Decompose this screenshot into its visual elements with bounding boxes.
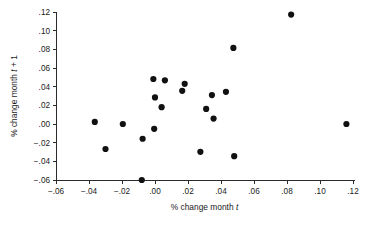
data-point [152,94,158,100]
y-tick-label: .08 [39,45,51,54]
data-point [179,88,185,94]
data-point [139,177,145,183]
data-point [159,104,165,110]
x-tick-label: −.06 [48,187,65,196]
data-point [182,81,188,87]
data-point [288,12,294,18]
data-point [140,136,146,142]
x-tick-label: .02 [182,187,194,196]
y-tick-label: −.04 [34,157,51,166]
data-points-layer [92,12,350,184]
x-tick-label: −.04 [81,187,98,196]
data-point [92,119,98,125]
data-point [150,76,156,82]
data-point [231,153,237,159]
data-point [343,121,349,127]
y-tick-label: .06 [39,64,51,73]
y-axis: −.06−.04−.02.00.02.04.06.08.10.12 [34,8,56,185]
x-axis-title: % change month t [171,202,239,212]
x-axis: −.06−.04−.02.00.02.04.06.08.10.12 [48,180,359,196]
y-tick-label: .10 [39,27,51,36]
x-tick-label: .04 [215,187,227,196]
x-tick-label: .00 [149,187,161,196]
data-point [203,106,209,112]
data-point [209,92,215,98]
data-point [197,149,203,155]
data-point [210,115,216,121]
x-tick-label: .10 [314,187,326,196]
chart-canvas: −.06−.04−.02.00.02.04.06.08.10.12 −.06−.… [0,0,368,233]
y-axis-title: % change month t + 1 [9,55,19,137]
y-tick-label: .02 [39,101,51,110]
data-point [151,126,157,132]
y-tick-label: .12 [39,8,51,17]
x-tick-label: −.02 [114,187,131,196]
y-tick-label: −.02 [34,139,51,148]
y-tick-label: −.06 [34,176,51,185]
x-tick-label: .12 [347,187,359,196]
data-point [120,121,126,127]
x-tick-label: .06 [248,187,260,196]
y-tick-label: .00 [39,120,51,129]
data-point [230,45,236,51]
data-point [223,89,229,95]
data-point [162,77,168,83]
data-point [102,146,108,152]
y-tick-label: .04 [39,83,51,92]
x-tick-label: .08 [281,187,293,196]
scatter-plot-figure: −.06−.04−.02.00.02.04.06.08.10.12 −.06−.… [0,0,368,233]
